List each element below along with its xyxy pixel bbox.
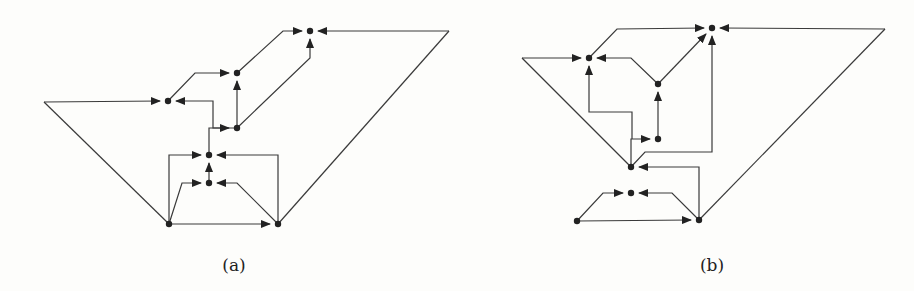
node-lowmid	[206, 180, 212, 186]
edge	[699, 29, 885, 220]
caption-b: (b)	[700, 255, 724, 275]
edge	[169, 155, 201, 224]
node-upper	[234, 70, 240, 76]
node-top	[709, 25, 715, 31]
edge	[44, 102, 169, 224]
edge	[237, 31, 302, 73]
node-small	[628, 190, 634, 196]
edge	[639, 193, 699, 220]
edge	[176, 101, 237, 128]
edge	[631, 36, 712, 167]
edge	[278, 31, 449, 224]
node-left	[586, 55, 592, 61]
node-left	[165, 98, 171, 104]
node-mid	[206, 152, 212, 158]
edge	[577, 193, 623, 221]
edge	[577, 220, 691, 221]
diagram-canvas	[0, 0, 914, 291]
edge	[589, 66, 632, 139]
caption-a: (a)	[222, 255, 245, 275]
edge	[169, 183, 201, 224]
node-center	[628, 164, 634, 170]
edge	[217, 183, 278, 224]
edge	[44, 101, 160, 102]
figure-b-graph	[522, 25, 885, 224]
figure-a-graph	[44, 28, 449, 227]
node-hub	[234, 125, 240, 131]
node-bl	[166, 221, 172, 227]
edge	[237, 39, 310, 128]
edge	[631, 139, 650, 167]
edge	[720, 28, 885, 29]
node-bl	[574, 218, 580, 224]
edge	[217, 155, 278, 224]
node-top	[307, 28, 313, 34]
node-br	[696, 217, 702, 223]
edge	[168, 73, 229, 101]
node-mid	[655, 81, 661, 87]
node-br	[275, 221, 281, 227]
edge	[597, 58, 658, 84]
edge	[658, 34, 706, 84]
edge	[209, 128, 229, 155]
node-inner	[655, 136, 661, 142]
